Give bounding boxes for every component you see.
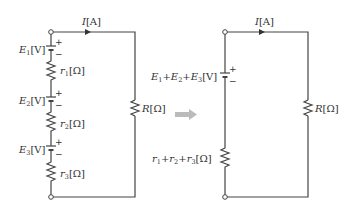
internal-resistor-equivalent xyxy=(221,77,229,195)
svg-text:E3[V]: E3[V] xyxy=(18,144,46,157)
svg-text:E2[V]: E2[V] xyxy=(18,95,46,108)
svg-text:+: + xyxy=(55,88,63,98)
terminal-top xyxy=(49,30,54,35)
load-resistor xyxy=(131,100,139,116)
load-resistor-label: R[Ω] xyxy=(141,103,166,114)
terminal-top xyxy=(223,30,228,35)
resistor-r1-label: r1[Ω] xyxy=(60,65,85,78)
current-label: I[A] xyxy=(254,16,274,27)
circuit-diagram: I[A] + − E1[V] r1[Ω] + − E2[V] r2[Ω] xyxy=(0,0,356,215)
svg-text:E1[V]: E1[V] xyxy=(18,44,46,57)
battery-equivalent-label: E1+E2+E3[V] xyxy=(150,71,217,84)
battery-equivalent: + − E1+E2+E3[V] xyxy=(150,64,237,86)
equivalence-arrow-icon xyxy=(175,109,197,120)
svg-text:+: + xyxy=(55,37,63,47)
terminal-bottom xyxy=(49,195,54,200)
svg-text:−: − xyxy=(229,76,237,86)
svg-text:+: + xyxy=(55,137,63,147)
svg-text:+: + xyxy=(229,64,237,74)
resistor-r2-label: r2[Ω] xyxy=(60,118,85,131)
battery-e1: + − E1[V] xyxy=(18,37,63,59)
battery-e2: + − E2[V] xyxy=(18,88,63,110)
battery-e3: + − E3[V] xyxy=(18,137,63,159)
resistor-r3-label: r3[Ω] xyxy=(60,168,85,181)
load-resistor-label: R[Ω] xyxy=(314,103,339,114)
svg-text:−: − xyxy=(55,100,63,110)
internal-resistor-equivalent-label: r1+r2+r3[Ω] xyxy=(152,153,212,166)
current-label: I[A] xyxy=(81,16,101,27)
current-arrow-icon xyxy=(259,29,265,35)
current-arrow-icon xyxy=(85,29,91,35)
top-wire xyxy=(53,32,135,100)
load-resistor xyxy=(304,100,312,116)
svg-text:−: − xyxy=(55,49,63,59)
terminal-bottom xyxy=(223,195,228,200)
left-circuit: I[A] + − E1[V] r1[Ω] + − E2[V] r2[Ω] xyxy=(18,16,166,199)
svg-text:−: − xyxy=(55,149,63,159)
right-circuit: I[A] + − E1+E2+E3[V] r1+r2+r3[Ω] R[Ω] xyxy=(150,16,339,199)
